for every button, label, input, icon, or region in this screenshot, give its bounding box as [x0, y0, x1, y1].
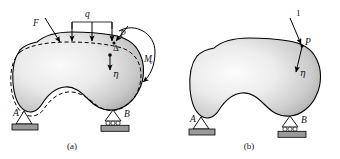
support-b-roller-2-b — [288, 127, 292, 131]
support-b-roller-panel-b: B — [278, 115, 307, 137]
support-b-roller-1-b — [283, 127, 287, 131]
unit-load-group-b: 1 — [290, 8, 301, 44]
support-a-ground-b — [189, 129, 215, 135]
direction-eta-label-b: η — [300, 68, 306, 78]
moment-me-subscript: e — [150, 59, 153, 65]
support-b-label-panel-a: B — [124, 109, 130, 119]
elastic-body-shape-a — [13, 32, 144, 112]
support-b-roller-3 — [116, 121, 120, 125]
distributed-load-label-q: q — [85, 9, 90, 19]
panel-b-caption: (b) — [244, 141, 255, 151]
panel-a-caption: (a) — [67, 141, 77, 151]
support-b-roller-panel-a: B — [101, 109, 130, 131]
support-a-ground — [12, 124, 38, 130]
support-b-roller-3-b — [293, 127, 297, 131]
support-b-ground-b — [278, 131, 306, 137]
unit-load-label-b: 1 — [296, 8, 301, 18]
figure-container: q F P Δ η M — [0, 0, 340, 159]
unit-load-arrow-b — [290, 18, 301, 44]
support-a-label-panel-b: A — [189, 114, 196, 124]
mechanics-figure: q F P Δ η M — [0, 0, 340, 159]
support-b-roller-1 — [106, 121, 110, 125]
force-f-label: F — [32, 18, 39, 28]
force-p-label-b: P — [304, 37, 311, 47]
panel-a: q F P Δ η M — [11, 9, 155, 151]
support-b-label-panel-b: B — [301, 115, 307, 125]
support-b-roller-2 — [111, 121, 115, 125]
support-b-ground — [101, 125, 129, 131]
support-b-triangle-b — [282, 116, 298, 127]
support-a-label-panel-a: A — [12, 108, 19, 118]
displacement-delta-label: Δ — [113, 43, 119, 53]
panel-b: 1 P η A B — [189, 8, 321, 151]
direction-eta-label-a: η — [113, 69, 119, 79]
support-b-triangle — [105, 110, 121, 121]
